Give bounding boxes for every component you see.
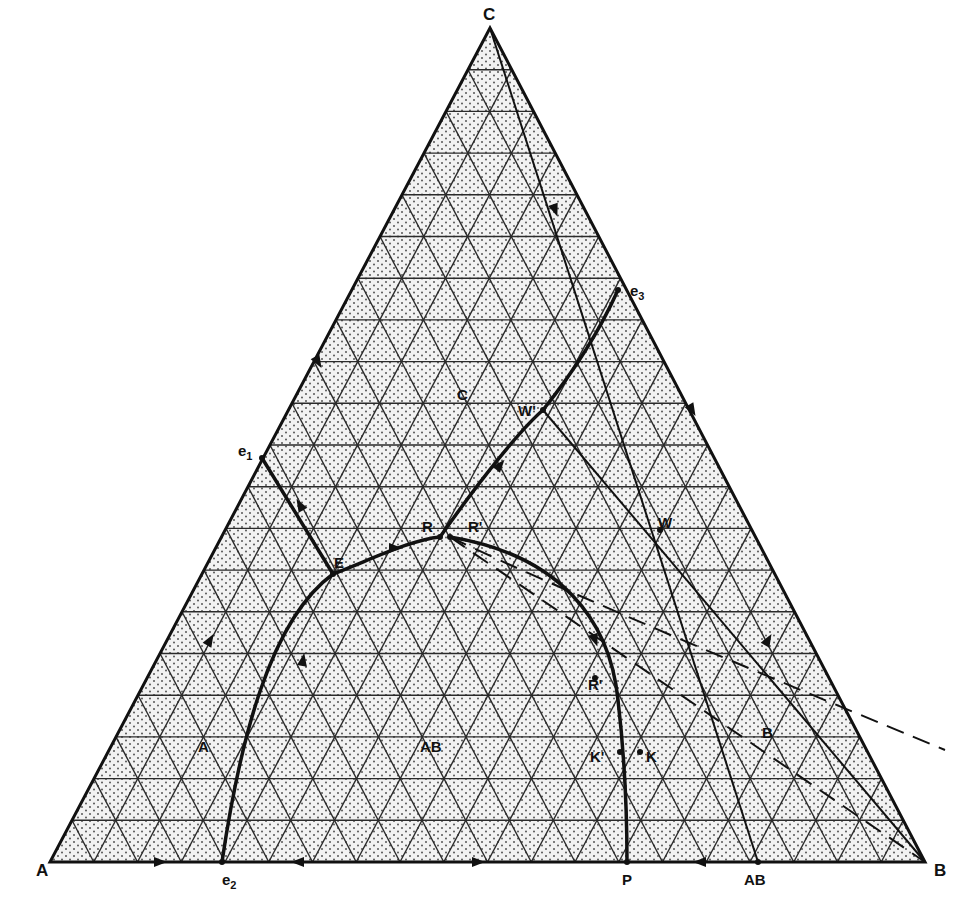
point-label-R1: R' (468, 518, 482, 535)
vertex-label-c: C (483, 5, 495, 24)
point-label-E: E (334, 554, 344, 571)
point-marker-P (624, 859, 630, 865)
point-marker-K1 (617, 749, 623, 755)
point-marker-R (437, 534, 443, 540)
point-marker-AB (755, 859, 761, 865)
point-label-P: P (622, 871, 632, 888)
point-label-W: W (658, 514, 673, 531)
point-marker-E (330, 571, 336, 577)
point-label-W1: W' (518, 402, 536, 419)
point-label-e1: e1 (238, 442, 252, 462)
point-marker-e3 (615, 287, 621, 293)
point-marker-e2 (219, 859, 225, 865)
region-B-label: B (762, 724, 773, 741)
point-label-e2: e2 (222, 871, 236, 891)
vertex-label-a: A (36, 861, 48, 880)
point-label-AB: AB (744, 871, 766, 888)
vertex-label-b: B (934, 861, 946, 880)
ternary-diagram: A B C e1e2e3PABERR'W'WR'K'KAABBC (0, 0, 967, 924)
region-AB-label: AB (420, 738, 442, 755)
point-label-K1: K' (590, 748, 604, 765)
point-marker-W1 (540, 407, 546, 413)
point-marker-e1 (259, 455, 265, 461)
point-label-K: K (646, 748, 657, 765)
point-marker-K (637, 749, 643, 755)
region-A-label: A (198, 738, 209, 755)
region-C-label: C (457, 386, 468, 403)
point-label-R2: R' (588, 676, 602, 693)
point-marker-R1 (447, 534, 453, 540)
point-label-R: R (422, 518, 433, 535)
